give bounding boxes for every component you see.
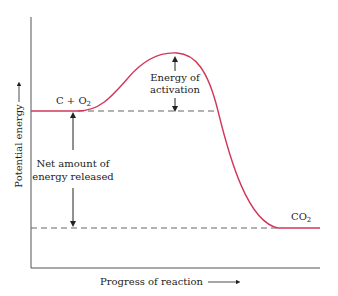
reactants-label: C + O2 [56, 95, 91, 108]
y-axis-label: Potential energy [13, 104, 24, 188]
activation-label-line2: activation [150, 84, 201, 95]
energy-diagram: Potential energy Progress of reaction C … [0, 0, 338, 296]
net-energy-label-line2: energy released [32, 171, 114, 182]
activation-label-line1: Energy of [150, 72, 201, 83]
net-energy-label-line1: Net amount of [36, 158, 110, 169]
product-label: CO2 [291, 211, 311, 224]
x-axis-label: Progress of reaction [100, 276, 203, 287]
